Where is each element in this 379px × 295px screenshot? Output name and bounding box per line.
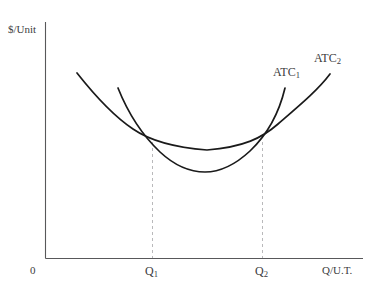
- curve-label-atc2-base: ATC: [314, 51, 337, 65]
- origin-label: 0: [30, 265, 36, 276]
- curve-atc2: [77, 73, 330, 150]
- x-tick-label-q1-base: Q: [145, 264, 154, 278]
- x-tick-label-q2: Q2: [255, 265, 268, 277]
- x-axis-title: Q/U.T.: [322, 265, 352, 276]
- curve-label-atc2-subscript: 2: [337, 56, 341, 66]
- y-axis-title: $/Unit: [8, 24, 36, 35]
- curve-label-atc1-subscript: 1: [296, 70, 300, 80]
- x-tick-label-q1-subscript: 1: [154, 269, 158, 279]
- x-tick-label-q1: Q1: [145, 265, 158, 277]
- atc-curves-figure: $/Unit Q/U.T. 0 Q1 Q2 ATC1 ATC2: [0, 0, 379, 295]
- x-tick-label-q2-base: Q: [255, 264, 264, 278]
- curve-label-atc2: ATC2: [314, 52, 341, 64]
- curve-label-atc1: ATC1: [273, 66, 300, 78]
- curve-atc1: [118, 88, 285, 172]
- x-tick-label-q2-subscript: 2: [264, 269, 268, 279]
- plot-canvas: [0, 0, 379, 295]
- curve-label-atc1-base: ATC: [273, 65, 296, 79]
